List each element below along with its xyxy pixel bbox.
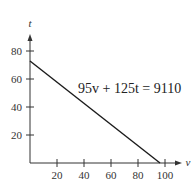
y-axis-arrow-icon <box>28 34 33 41</box>
equation-line <box>30 61 160 163</box>
xtick-label: 80 <box>133 169 145 181</box>
xtick-label: 40 <box>79 169 91 181</box>
chart: 20 40 60 80 20 40 60 80 100 t v 95v + 12… <box>0 0 193 181</box>
xtick-label: 60 <box>106 169 118 181</box>
x-axis-arrow-icon <box>175 161 182 166</box>
xtick-label: 20 <box>52 169 64 181</box>
ytick-label: 40 <box>11 101 23 113</box>
ytick-label: 60 <box>11 73 23 85</box>
ytick-label: 80 <box>11 45 23 57</box>
ytick-label: 20 <box>11 129 23 141</box>
equation-label: 95v + 125t = 9110 <box>78 81 181 96</box>
xtick-label: 100 <box>157 169 174 181</box>
y-axis-label: t <box>28 17 32 29</box>
x-axis-label: v <box>186 156 191 168</box>
